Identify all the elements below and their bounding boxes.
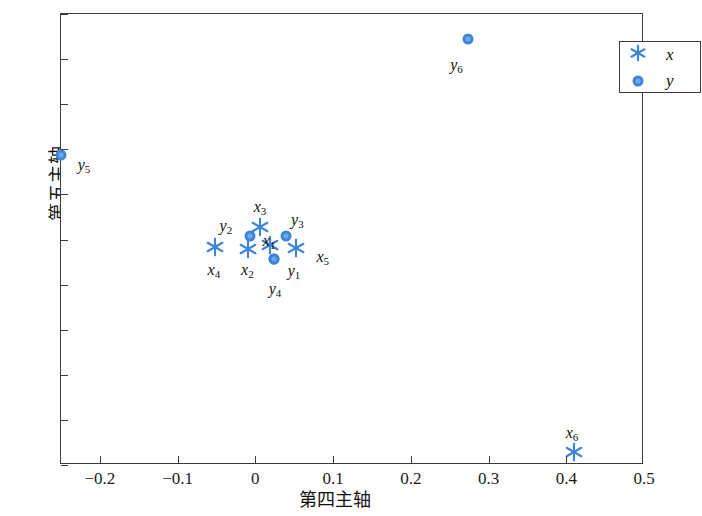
point-label-subscript: 4 [215, 268, 221, 280]
x-tick-label: 0.4 [526, 470, 606, 487]
point-label-x1: x1 [263, 232, 276, 250]
x-tick-mark [333, 456, 334, 463]
legend-asterisk-icon [630, 45, 647, 66]
data-point-x6 [565, 443, 584, 462]
data-point-x4 [205, 237, 224, 256]
point-label-subscript: 2 [227, 224, 233, 236]
point-label-subscript: 5 [85, 163, 91, 175]
legend-circle-icon [633, 76, 644, 87]
x-tick-mark [566, 456, 567, 463]
point-label-x5: x5 [316, 248, 329, 266]
x-tick-mark [178, 456, 179, 463]
plot-area: x1x2x3x4x5x6y1y2y3y4y5y6 [61, 14, 642, 463]
point-label-y5: y5 [78, 156, 91, 174]
point-label-y6: y6 [450, 56, 463, 74]
y-tick-mark [61, 194, 68, 195]
x-tick-label: 0.5 [604, 470, 684, 487]
plot-frame: x1x2x3x4x5x6y1y2y3y4y5y6 0.250.200.150.1… [60, 13, 643, 464]
point-label-subscript: 5 [324, 255, 330, 267]
point-label-subscript: 1 [295, 269, 301, 281]
point-label-subscript: 6 [457, 63, 463, 75]
y-tick-mark [61, 149, 68, 150]
point-label-subscript: 4 [276, 287, 282, 299]
legend-item-x[interactable]: x [620, 42, 702, 68]
data-point-y6 [462, 34, 473, 45]
x-tick-mark [100, 456, 101, 463]
y-tick-mark [61, 330, 68, 331]
data-point-y3 [281, 230, 292, 241]
y-tick-mark [61, 240, 68, 241]
x-tick-mark [255, 456, 256, 463]
x-tick-label: −0.2 [60, 470, 140, 487]
x-axis-title: 第四主轴 [0, 485, 669, 511]
data-point-y2 [244, 230, 255, 241]
x-tick-mark [411, 456, 412, 463]
point-label-y4: y4 [269, 280, 282, 298]
y-tick-mark [61, 59, 68, 60]
point-label-x4: x4 [208, 261, 221, 279]
y-tick-mark [61, 104, 68, 105]
legend-label: x [666, 45, 674, 65]
x-tick-label: 0.1 [293, 470, 373, 487]
point-label-y2: y2 [220, 217, 233, 235]
x-tick-label: 0 [215, 470, 295, 487]
y-tick-mark [61, 375, 68, 376]
point-label-subscript: 6 [573, 431, 579, 443]
x-tick-label: 0.2 [371, 470, 451, 487]
point-label-y1: y1 [288, 262, 301, 280]
point-label-x2: x2 [241, 261, 254, 279]
data-point-x5 [286, 238, 305, 257]
point-label-x6: x6 [566, 424, 579, 442]
data-point-x2 [239, 239, 258, 258]
x-tick-mark [489, 456, 490, 463]
point-label-subscript: 3 [298, 218, 304, 230]
x-tick-label: 0.3 [449, 470, 529, 487]
legend-label: y [666, 71, 674, 91]
y-tick-mark [61, 420, 68, 421]
point-label-y3: y3 [291, 211, 304, 229]
point-label-subscript: 1 [270, 239, 276, 251]
y-tick-mark [61, 465, 68, 466]
point-label-subscript: 3 [261, 205, 267, 217]
legend-item-y[interactable]: y [620, 68, 702, 94]
data-point-y4 [268, 254, 279, 265]
y-tick-mark [61, 285, 68, 286]
y-tick-mark [61, 14, 68, 15]
legend[interactable]: xy [619, 41, 701, 93]
point-label-x3: x3 [254, 198, 267, 216]
data-point-y1 [268, 254, 279, 265]
x-tick-label: −0.1 [138, 470, 218, 487]
point-label-subscript: 2 [248, 268, 254, 280]
